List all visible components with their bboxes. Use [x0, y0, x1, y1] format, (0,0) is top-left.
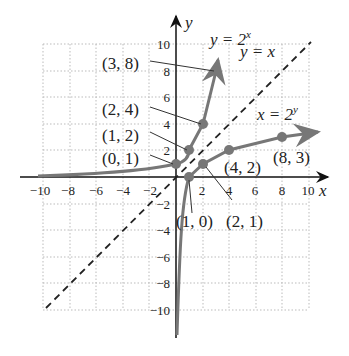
- svg-text:−4: −4: [156, 223, 170, 238]
- svg-text:(2, 1): (2, 1): [226, 212, 263, 231]
- svg-text:−10: −10: [150, 303, 170, 318]
- svg-text:(1, 2): (1, 2): [102, 126, 139, 145]
- svg-text:−4: −4: [116, 183, 130, 198]
- svg-text:6: 6: [164, 90, 171, 105]
- svg-text:8: 8: [164, 64, 171, 79]
- svg-text:2: 2: [164, 143, 171, 158]
- svg-text:−8: −8: [156, 276, 170, 291]
- x-axis-label: x: [318, 181, 327, 200]
- svg-text:6: 6: [252, 183, 259, 198]
- svg-text:10: 10: [302, 183, 315, 198]
- svg-text:(1, 0): (1, 0): [176, 212, 213, 231]
- svg-text:(2, 4): (2, 4): [102, 100, 139, 119]
- svg-text:−8: −8: [61, 183, 75, 198]
- svg-text:(4, 2): (4, 2): [224, 158, 261, 177]
- y-axis-label: y: [183, 13, 193, 32]
- svg-text:−2: −2: [156, 197, 170, 212]
- svg-text:2: 2: [199, 183, 206, 198]
- svg-text:4: 4: [164, 117, 171, 132]
- svg-text:−2: −2: [143, 183, 157, 198]
- svg-text:−6: −6: [156, 250, 170, 265]
- svg-text:(3, 8): (3, 8): [102, 54, 139, 73]
- leader-lines: [150, 61, 232, 213]
- svg-text:(0, 1): (0, 1): [102, 149, 139, 168]
- svg-text:8: 8: [279, 183, 286, 198]
- chart: −10 −8 −6 −4 −2 2 4 6 8 10 x y 10 8 6 4 …: [0, 0, 349, 356]
- svg-text:10: 10: [157, 37, 170, 52]
- svg-text:−6: −6: [89, 183, 103, 198]
- label-y-x: y = x: [238, 42, 276, 61]
- svg-text:(8, 3): (8, 3): [273, 148, 310, 167]
- svg-text:4: 4: [226, 183, 233, 198]
- svg-text:−10: −10: [30, 183, 50, 198]
- label-x-2y: x = 2y: [256, 103, 298, 124]
- x-tick-labels: −10 −8 −6 −4 −2 2 4 6 8 10: [30, 183, 315, 198]
